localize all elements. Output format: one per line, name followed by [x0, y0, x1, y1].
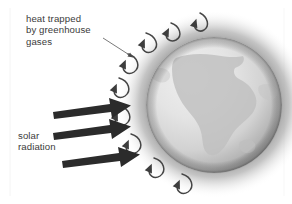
solar-radiation-label: solar radiation — [18, 130, 56, 153]
continent-africa — [146, 37, 282, 173]
earth-globe — [146, 37, 282, 173]
heat-trapped-label: heat trapped by greenhouse gases — [26, 13, 91, 47]
heat-label-leader-line — [103, 38, 131, 56]
greenhouse-effect-diagram: heat trapped by greenhouse gases solar r… — [0, 0, 292, 204]
solar-arrow-3 — [62, 147, 140, 168]
solar-arrow-2 — [53, 119, 131, 140]
